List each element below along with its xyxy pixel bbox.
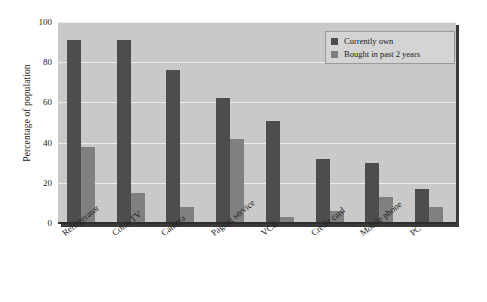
bar-currently-own — [67, 40, 81, 223]
y-axis-tick-label: 60 — [24, 98, 52, 107]
y-axis-tick-label: 20 — [24, 178, 52, 187]
legend-label-currently-own: Currently own — [344, 37, 393, 46]
legend-swatch-currently-own — [331, 38, 338, 45]
gridline — [58, 22, 456, 23]
y-axis-tick-label: 100 — [24, 18, 52, 27]
bar-currently-own — [216, 98, 230, 223]
bar-currently-own — [117, 40, 131, 223]
bar-currently-own — [266, 121, 280, 224]
legend-label-bought-in-past-2-years: Bought in past 2 years — [344, 50, 420, 59]
bar-chart-figure: Percentage of population 020406080100 Re… — [0, 0, 487, 302]
legend-swatch-bought-in-past-2-years — [331, 51, 338, 58]
y-axis-tick-label: 80 — [24, 58, 52, 67]
bar-currently-own — [415, 189, 429, 223]
y-axis-tick-label: 0 — [24, 219, 52, 228]
legend-item-bought-in-past-2-years: Bought in past 2 years — [331, 48, 449, 61]
y-axis-tick-labels: 020406080100 — [24, 22, 52, 222]
bar-bought-in-past-2-years — [429, 207, 443, 223]
legend-item-currently-own: Currently own — [331, 35, 449, 48]
chart-legend: Currently own Bought in past 2 years — [325, 31, 455, 64]
bar-currently-own — [166, 70, 180, 223]
y-axis-tick-label: 40 — [24, 138, 52, 147]
bar-currently-own — [316, 159, 330, 223]
